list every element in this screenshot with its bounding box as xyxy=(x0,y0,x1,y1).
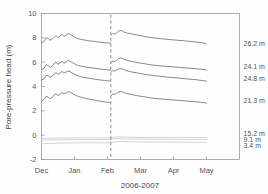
series-line xyxy=(111,30,206,44)
x-tick-label: Jan xyxy=(68,166,80,175)
series-end-label: 3.4 m xyxy=(244,142,262,149)
x-tick-label: Dec xyxy=(35,166,49,175)
y-tick-labels: 1086420-2 xyxy=(28,9,36,164)
x-tick-label: May xyxy=(199,166,213,175)
data-curves xyxy=(42,30,207,143)
y-tick-label: 4 xyxy=(32,82,36,91)
series-line xyxy=(42,137,207,138)
x-axis-title: 2006-2007 xyxy=(121,181,160,190)
series-end-label: 21.3 m xyxy=(244,97,266,104)
series-line xyxy=(42,92,111,103)
series-line xyxy=(111,68,206,81)
series-end-labels: 26.2 m24.1 m24.8 m21.3 m15.2 m9.1 m3.4 m xyxy=(244,40,266,148)
x-tick-label: Mar xyxy=(134,166,147,175)
y-tick-label: 10 xyxy=(28,9,36,18)
chart-figure: Pore-pressure head (m) 1086420-2 DecJanF… xyxy=(0,0,268,194)
y-axis-title: Pore-pressure head (m) xyxy=(4,44,13,129)
series-line xyxy=(111,58,206,70)
series-end-label: 24.1 m xyxy=(244,63,266,70)
series-line xyxy=(111,91,206,103)
series-end-label: 26.2 m xyxy=(244,40,266,47)
x-tick-label: Apr xyxy=(168,166,180,175)
y-tick-label: 0 xyxy=(32,131,36,140)
series-line xyxy=(42,141,207,143)
x-tick-label: Feb xyxy=(101,166,114,175)
series-line xyxy=(42,139,207,140)
x-tick-labels: DecJanFebMarAprMay xyxy=(35,166,214,175)
series-line xyxy=(42,60,111,70)
series-line xyxy=(42,34,111,44)
y-tick-label: 8 xyxy=(32,33,36,42)
pore-pressure-head-line-chart: Pore-pressure head (m) 1086420-2 DecJanF… xyxy=(0,0,268,194)
series-line xyxy=(42,71,111,81)
y-axis-title-group: Pore-pressure head (m) xyxy=(4,44,13,129)
y-tick-label: -2 xyxy=(30,155,37,164)
series-end-label: 24.8 m xyxy=(244,75,266,82)
y-tick-label: 6 xyxy=(32,58,36,67)
y-tick-label: 2 xyxy=(32,106,36,115)
